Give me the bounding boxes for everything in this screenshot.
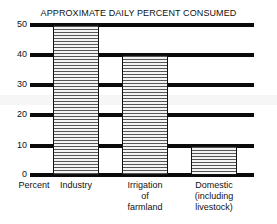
category-irrigation: Irrigation of farmland bbox=[117, 180, 173, 213]
tick-30: 30 bbox=[0, 80, 27, 89]
category-domestic-line1: Domestic bbox=[185, 180, 243, 191]
category-irrigation-line1: Irrigation bbox=[117, 180, 173, 191]
category-domestic-line2: (including bbox=[185, 191, 243, 202]
category-industry: Industry bbox=[53, 180, 99, 191]
category-domestic: Domestic (including livestock) bbox=[185, 180, 243, 213]
category-irrigation-line3: farmland bbox=[117, 202, 173, 213]
tick-20: 20 bbox=[0, 110, 27, 119]
bar-industry bbox=[53, 25, 99, 175]
tick-0: 0 bbox=[0, 170, 27, 179]
bar-irrigation bbox=[122, 55, 168, 175]
chart-title: APPROXIMATE DAILY PERCENT CONSUMED bbox=[0, 8, 277, 18]
tick-40: 40 bbox=[0, 50, 27, 59]
bar-domestic bbox=[191, 146, 237, 175]
tick-50: 50 bbox=[0, 20, 27, 29]
category-irrigation-line2: of bbox=[117, 191, 173, 202]
category-domestic-line3: livestock) bbox=[185, 202, 243, 213]
y-unit-label: Percent bbox=[14, 180, 54, 191]
tick-10: 10 bbox=[0, 141, 27, 150]
